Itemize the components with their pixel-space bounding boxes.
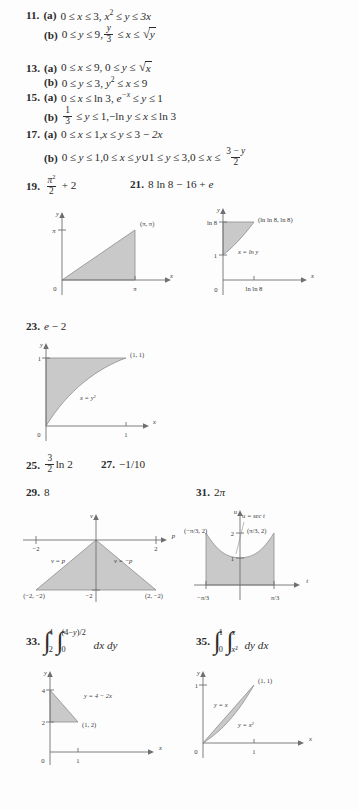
answer-number-31: 31. [196,486,210,498]
answer-15a: 15. (a) 0≤x≤ln 3, e−x≤y≤1 [26,90,163,104]
v-tick-label-neg2: −2 [85,592,92,599]
integral-upper-limit: (4−y)/2 [62,628,86,637]
y-axis-arrow [43,343,49,349]
answer-number-35: 35. [196,635,210,647]
y-axis-label: y [216,206,220,213]
y-axis-arrow [47,671,53,677]
integral-inner: ∫(4−y)/20 [57,628,86,654]
answer-31: 31. 2π [196,486,225,498]
curve-label-u-eq-sec-t: u = sec t [242,512,265,519]
figure-33: x y 0 4 2 1 y = 4 − 2x (1, 2) [20,655,185,780]
x-axis-label: x [152,418,156,425]
point-label-1-1: (1, 1) [130,351,144,359]
answer-page: 11. (a) 0≤x≤3, x2≤y≤3x (b) 0≤y≤9,y3≤x≤√y… [0,0,358,810]
part-label-a: (a) [44,128,57,140]
answer-19-expression: π22 + 2 [44,175,76,197]
fraction-numerator: π2 [45,174,57,186]
point-label-1-1: (1, 1) [258,677,272,685]
v-axis-label: v [90,512,93,519]
answer-17a-expression: 0≤x≤1,x≤y≤3 − 2x [61,128,163,140]
answer-29-expression: 8 [44,486,50,498]
y-tick-label-2: 2 [42,719,45,726]
answer-35: 35. ∫10 ∫xx² dy dx [196,628,268,654]
region-triangle [62,230,135,280]
answer-number-17: 17. [26,128,40,140]
figure-19: x y 0 π π (π, π) [40,205,175,300]
answer-number-21: 21. [130,178,144,190]
answer-13a-expression: 0≤x≤9, 0≤y≤√x [61,60,152,75]
fraction-3-minus-y-over-2: 3 − y2 [224,147,247,167]
y-axis-arrow [220,208,226,214]
origin-label: 0 [37,431,41,438]
x-tick-label-1: 1 [252,748,255,755]
part-label-b: (b) [44,152,58,164]
y-tick-label-1: 1 [38,355,41,362]
x-axis-label: x [310,272,314,279]
answer-25: 25. 32ln 2 [26,455,73,475]
answer-21-expression: 8 ln 8 − 16 + e [148,178,213,190]
u-tick-label-1: 1 [231,555,234,562]
integral-lower-limit: x² [232,645,238,654]
v-axis-arrow [93,514,99,520]
answer-23: 23. e − 2 [26,320,66,332]
answer-13b-expression: 0≤y≤3, y2≤x≤9 [62,75,148,89]
part-label-a: (a) [44,62,57,74]
y-tick-label-pi: π [52,227,56,234]
part-label-b: (b) [44,29,58,41]
answer-13b: (b) 0≤y≤3, y2≤x≤9 [44,75,147,89]
origin-label: 0 [41,757,45,764]
fraction-1-over-3: 13 [63,106,72,126]
fraction-y-over-3: y3 [104,24,113,44]
answer-27-expression: −1/10 [119,458,145,470]
region-triangle [50,690,78,722]
answer-number-33: 33. [26,635,40,647]
fraction-3-over-2: 32 [45,454,54,474]
y-axis-arrow [200,671,206,677]
answer-15b: (b) 13≤y≤1,−ln y≤x≤ln 3 [44,107,176,127]
answer-17b: (b) 0≤y≤1,0≤x≤y∪1≤y≤3,0≤x≤3 − y2 [44,148,249,168]
answer-27: 27. −1/10 [101,458,145,470]
integral-outer: ∫42 [44,628,53,654]
origin-label: 0 [214,286,218,293]
figure-31: t u 2 1 −π/3 π/3 (−π/3, 2) (π/3, 2) u = … [184,500,356,605]
exponent-neg-x: −x [122,90,131,99]
curve-label-v-eq-p: v = p [51,557,66,564]
point-label-pi-pi: (π, π) [140,220,154,228]
answer-number-13: 13. [26,62,40,74]
fraction-pi2-over-2: π22 [45,174,57,196]
answer-number-11: 11. [26,9,39,21]
x-axis-arrow [143,423,149,429]
answer-13a: 13. (a) 0≤x≤9, 0≤y≤√x [26,60,152,75]
x-tick-label-pi: π [133,285,137,292]
curve-label-x-eq-ln-y: x = ln y [237,248,258,255]
region-between-x-and-x2 [203,685,254,743]
answer-17b-expression: 0≤y≤1,0≤x≤y∪1≤y≤3,0≤x≤3 − y2 [62,148,249,168]
answer-number-29: 29. [26,486,40,498]
x-axis-arrow [148,749,154,755]
answer-29: 29. 8 [26,486,50,498]
point-label-neg-pi3-2: (−π/3, 2) [184,527,207,535]
p-axis-arrow [161,537,167,543]
curve-label-v-eq-neg-p: v = −p [114,557,133,564]
y-tick-label-1: 1 [214,252,217,259]
y-axis-arrow [59,212,65,218]
point-label-1-2: (1, 2) [82,721,96,729]
part-label-b: (b) [44,76,58,88]
y-tick-label-4: 4 [42,687,46,694]
p-axis-label: p [171,532,176,539]
part-label-a: (a) [43,9,56,21]
t-tick-label-pi3: π/3 [271,594,280,601]
integral-inner: ∫xx² [227,628,238,654]
answer-number-27: 27. [101,458,115,470]
y-tick-label-ln8: ln 8 [207,219,218,226]
t-tick-label-neg-pi3: −π/3 [197,594,210,601]
y-tick-label-1: 1 [195,682,198,689]
answer-35-expression: ∫10 ∫xx² dy dx [214,628,268,654]
u-tick-label-2: 2 [231,530,234,537]
answer-11a-expression: 0≤x≤3, x2≤y≤3x [60,8,151,22]
answer-number-23: 23. [26,320,40,332]
curve-label-x-eq-y2: x = y2 [79,394,97,401]
differential-dx-dy: dx dy [94,639,118,651]
union-symbol: ∪ [141,151,149,163]
fraction-numerator: 3 − y [224,147,247,157]
